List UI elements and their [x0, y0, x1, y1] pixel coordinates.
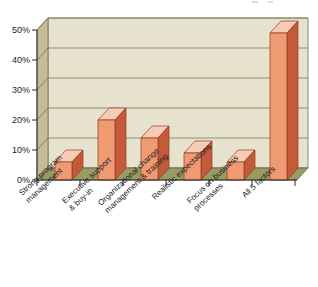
- bar-all-5-factors: [270, 21, 298, 180]
- ytick-label-50: 50%: [12, 25, 30, 35]
- ytick-label-30: 30%: [12, 85, 30, 95]
- y-axis-ticks: [32, 30, 37, 180]
- plot-left-wall: [37, 18, 48, 180]
- ytick-label-40: 40%: [12, 55, 30, 65]
- chart-canvas: 50% 40% 30% 20% 10% 0%: [0, 0, 318, 287]
- ytick-label-10: 10%: [12, 145, 30, 155]
- top-artifact-mark: [252, 1, 273, 3]
- plot-back-wall: [48, 18, 308, 168]
- bar-chart: 50% 40% 30% 20% 10% 0%: [0, 0, 318, 287]
- ytick-label-20: 20%: [12, 115, 30, 125]
